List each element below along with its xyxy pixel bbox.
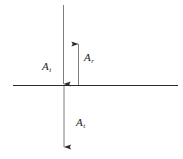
transmitted-label-base: A: [76, 116, 83, 128]
incident-amplitude-label: Ai: [42, 61, 51, 74]
reflected-label-base: A: [84, 51, 91, 63]
reflected-label-subscript: r: [91, 57, 94, 65]
transmitted-label-subscript: t: [83, 122, 85, 130]
incident-label-subscript: i: [49, 66, 51, 74]
transmitted-amplitude-label: At: [76, 117, 85, 130]
reflected-amplitude-label: Ar: [84, 52, 94, 65]
diagram-canvas: [0, 0, 183, 159]
amplitude-vector-diagram: Ai Ar At: [0, 0, 183, 159]
incident-label-base: A: [42, 60, 49, 72]
